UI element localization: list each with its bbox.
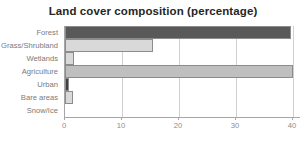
bar-bare-areas[interactable]: [65, 91, 73, 104]
bar-row: [65, 104, 300, 117]
bar-chart: Land cover composition (percentage) Fore…: [0, 0, 306, 157]
bar-row: [65, 52, 300, 65]
category-label-snow-ice: Snow/Ice: [0, 104, 58, 117]
x-axis-line: [64, 117, 300, 118]
x-tick-mark-20: [178, 117, 179, 120]
category-label-wetlands: Wetlands: [0, 52, 58, 65]
x-tick-mark-0: [64, 117, 65, 120]
chart-title: Land cover composition (percentage): [0, 5, 306, 17]
bar-agriculture[interactable]: [65, 65, 293, 78]
bar-forest[interactable]: [65, 26, 291, 39]
bar-row: [65, 78, 300, 91]
x-tick-label-40: 40: [277, 121, 306, 130]
bar-row: [65, 39, 300, 52]
x-tick-label-20: 20: [163, 121, 193, 130]
category-label-agriculture: Agriculture: [0, 65, 58, 78]
x-tick-label-0: 0: [49, 121, 79, 130]
bar-row: [65, 91, 300, 104]
bar-urban[interactable]: [65, 78, 69, 91]
x-tick-label-10: 10: [106, 121, 136, 130]
bar-row: [65, 26, 300, 39]
x-tick-mark-40: [292, 117, 293, 120]
x-tick-mark-30: [235, 117, 236, 120]
bar-row: [65, 65, 300, 78]
bar-grass-shrubland[interactable]: [65, 39, 153, 52]
category-label-urban: Urban: [0, 78, 58, 91]
category-label-grass-shrubland: Grass/Shrubland: [0, 39, 58, 52]
category-label-forest: Forest: [0, 26, 58, 39]
x-tick-mark-10: [121, 117, 122, 120]
bar-wetlands[interactable]: [65, 52, 74, 65]
plot-area: [64, 26, 300, 117]
category-label-bare-areas: Bare areas: [0, 91, 58, 104]
x-tick-label-30: 30: [220, 121, 250, 130]
